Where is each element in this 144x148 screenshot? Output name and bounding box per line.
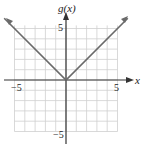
x-axis-label: x xyxy=(134,74,140,86)
graph: g(x) x −5 5 5 −5 xyxy=(0,0,144,148)
x-tick-5: 5 xyxy=(114,82,119,93)
y-tick-neg5: −5 xyxy=(53,129,64,140)
y-axis-label: g(x) xyxy=(58,2,76,15)
x-tick-neg5: −5 xyxy=(11,82,22,93)
x-axis-arrow-icon xyxy=(126,77,134,83)
y-tick-5: 5 xyxy=(58,22,63,33)
